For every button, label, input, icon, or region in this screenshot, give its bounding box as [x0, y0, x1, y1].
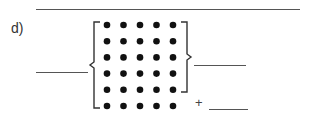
array-dot [170, 103, 177, 110]
array-dot [104, 38, 111, 45]
array-dot [120, 54, 127, 61]
array-dot [170, 54, 177, 61]
array-dot [153, 54, 160, 61]
array-dot [104, 87, 111, 94]
array-dot [104, 22, 111, 29]
array-dot [120, 87, 127, 94]
answer-blank-remaining[interactable] [209, 109, 248, 110]
array-dot [137, 87, 144, 94]
array-dot [137, 22, 144, 29]
array-dot [137, 103, 144, 110]
array-dot [170, 38, 177, 45]
left-brace-bracket [90, 22, 100, 108]
array-dot [153, 87, 160, 94]
answer-blank-bracketed[interactable] [194, 65, 246, 66]
array-dot [104, 54, 111, 61]
array-dot [137, 54, 144, 61]
dot-array-figure [0, 0, 317, 121]
array-dot [153, 38, 160, 45]
array-dot [120, 103, 127, 110]
array-dot [137, 38, 144, 45]
right-brace-bracket [181, 22, 191, 92]
array-dot [120, 38, 127, 45]
array-dot [120, 22, 127, 29]
array-dot [120, 70, 127, 77]
dot-grid [104, 22, 177, 110]
array-dot [153, 70, 160, 77]
array-dot [104, 70, 111, 77]
array-dot [170, 70, 177, 77]
array-dot [104, 103, 111, 110]
answer-blank-total[interactable] [36, 72, 88, 73]
array-dot [137, 70, 144, 77]
plus-sign: + [195, 95, 203, 110]
array-dot [153, 103, 160, 110]
array-dot [170, 87, 177, 94]
array-dot [170, 22, 177, 29]
array-dot [153, 22, 160, 29]
